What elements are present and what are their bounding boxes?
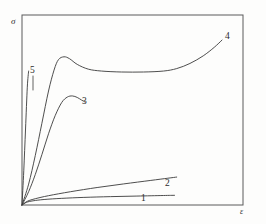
chart-figure: σ ε 1 2 3 4 5 xyxy=(0,0,266,224)
x-axis-label: ε xyxy=(240,208,243,216)
y-axis-label: σ xyxy=(11,17,15,26)
curve-5 xyxy=(22,71,29,205)
curve-label-2: 2 xyxy=(165,179,170,189)
curve-label-3: 3 xyxy=(82,97,87,107)
curve-3 xyxy=(22,96,85,205)
curve-label-5: 5 xyxy=(30,66,35,76)
curve-label-1: 1 xyxy=(141,194,146,204)
curve-label-4: 4 xyxy=(225,32,230,42)
curve-group xyxy=(22,40,222,205)
plot-frame xyxy=(22,15,243,205)
curve-2 xyxy=(22,177,177,205)
